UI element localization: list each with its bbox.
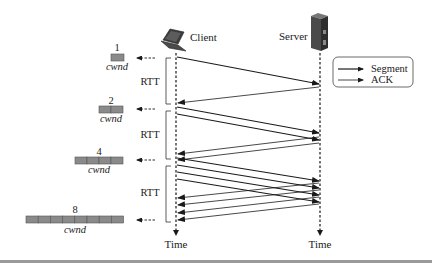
cwnd-4: 4 cwnd: [75, 146, 155, 175]
ack-arrow: [178, 204, 319, 220]
cwnd-2: 2 cwnd: [99, 95, 155, 124]
rtt-label-2: RTT: [140, 129, 160, 140]
segment-arrow: [177, 172, 319, 195]
round-3-exchange: [177, 158, 319, 220]
rtt-bracket-3: RTT: [140, 166, 171, 222]
segment-arrow: [177, 57, 319, 84]
cwnd-2-count: 2: [108, 95, 113, 106]
cwnd-1-label: cwnd: [106, 61, 129, 72]
rtt-label-3: RTT: [140, 187, 160, 198]
round-2-exchange: [177, 107, 319, 160]
cwnd-1: 1 cwnd: [106, 42, 155, 72]
rtt-label-1: RTT: [140, 76, 160, 87]
client-time-arrow-icon: [173, 230, 179, 236]
segment-arrow: [177, 158, 319, 181]
client-time-label: Time: [165, 238, 188, 250]
ack-arrow: [178, 87, 319, 103]
rtt-bracket-1: RTT: [140, 58, 171, 104]
rtt-bracket-2: RTT: [140, 111, 171, 159]
segment-arrow: [177, 114, 319, 140]
ack-arrow: [178, 190, 319, 205]
legend-ack-label: ACK: [371, 74, 394, 85]
ack-arrow: [178, 183, 319, 198]
cwnd-8-label: cwnd: [64, 224, 87, 235]
ack-arrow: [178, 197, 319, 213]
client-label: Client: [190, 31, 217, 43]
server-time-label: Time: [309, 238, 332, 250]
server-time-arrow-icon: [317, 230, 323, 236]
cwnd-8-count: 8: [72, 204, 77, 215]
tcp-slow-start-diagram: Client Server Time Time Segment ACK RTT …: [0, 0, 432, 263]
segment-arrow: [177, 165, 319, 188]
laptop-icon: [161, 29, 186, 51]
round-1-exchange: [177, 57, 319, 103]
cwnd-4-count: 4: [96, 146, 102, 157]
segment-arrow: [177, 107, 319, 133]
legend: Segment ACK: [333, 57, 413, 87]
cwnd-8: 8 cwnd: [26, 204, 155, 235]
server-icon: [311, 13, 328, 51]
cwnd-1-count: 1: [114, 42, 119, 53]
server-label: Server: [279, 30, 308, 42]
cwnd-2-label: cwnd: [100, 113, 123, 124]
cwnd-4-label: cwnd: [88, 164, 111, 175]
legend-segment-label: Segment: [371, 63, 408, 74]
